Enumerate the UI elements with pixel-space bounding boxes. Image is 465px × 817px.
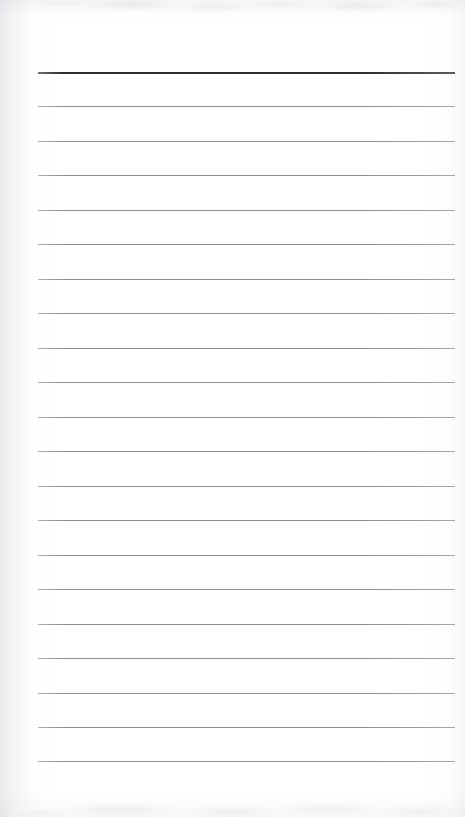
rule-line	[38, 417, 455, 418]
rule-line	[38, 693, 455, 694]
rule-line	[38, 486, 455, 487]
rule-line	[38, 658, 455, 659]
rule-line	[38, 624, 455, 625]
rule-line	[38, 451, 455, 452]
rule-line	[38, 382, 455, 383]
rule-line	[38, 589, 455, 590]
ruled-lines-layer	[0, 0, 465, 817]
rule-line	[38, 279, 455, 280]
rule-line	[38, 727, 455, 728]
rule-line	[38, 244, 455, 245]
rule-line	[38, 520, 455, 521]
rule-line	[38, 555, 455, 556]
rule-line	[38, 141, 455, 142]
rule-line	[38, 210, 455, 211]
rule-line	[38, 313, 455, 314]
rule-line	[38, 761, 455, 762]
header-rule-line	[38, 72, 455, 74]
rule-line	[38, 106, 455, 107]
rule-line	[38, 175, 455, 176]
scanned-page	[0, 0, 465, 817]
rule-line	[38, 348, 455, 349]
